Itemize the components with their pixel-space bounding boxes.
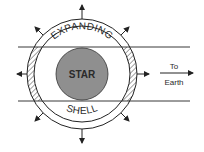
arrow-up-left-icon [35, 27, 43, 35]
label-star: STAR [69, 69, 96, 80]
arrow-down-right-icon [121, 113, 129, 121]
label-earth: Earth [164, 78, 183, 87]
label-expanding: EXPANDING [49, 20, 116, 41]
label-to: To [170, 62, 179, 71]
label-shell: SHELL [65, 102, 99, 116]
expanding-shell-diagram: EXPANDING SHELL STAR To Earth [0, 0, 204, 152]
arrow-down-left-icon [35, 113, 43, 121]
arrow-up-right-icon [121, 27, 129, 35]
